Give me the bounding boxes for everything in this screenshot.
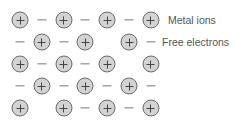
free-electron-icon — [59, 41, 68, 42]
metal-ion-icon — [55, 56, 72, 73]
metal-ion-icon — [12, 100, 29, 117]
free-electron-icon — [37, 19, 46, 20]
metal-ion-icon — [99, 56, 116, 73]
free-electron-icon — [37, 63, 46, 64]
free-electron-icon — [125, 19, 134, 20]
metal-ion-icon — [99, 12, 116, 29]
metal-ion-icon — [12, 56, 29, 73]
metal-ion-icon — [33, 78, 50, 95]
free-electron-icon — [81, 19, 90, 20]
free-electron-icon — [125, 107, 134, 108]
free-electron-icon — [59, 85, 68, 86]
free-electron-icon — [103, 85, 112, 86]
free-electron-icon — [146, 41, 155, 42]
metal-ion-icon — [99, 100, 116, 117]
metal-ion-icon — [12, 12, 29, 29]
metal-ion-icon — [142, 56, 159, 73]
free-electron-icon — [16, 41, 25, 42]
free-electron-icon — [16, 85, 25, 86]
metal-ion-icon — [55, 100, 72, 117]
metal-ion-icon — [142, 12, 159, 29]
metal-ion-icon — [55, 12, 72, 29]
metal-ion-icon — [77, 34, 94, 51]
metal-ion-icon — [33, 34, 50, 51]
label-metal-ions: Metal ions — [168, 14, 216, 26]
metal-ion-icon — [121, 34, 138, 51]
free-electron-icon — [81, 107, 90, 108]
metal-ion-icon — [77, 78, 94, 95]
metal-ion-icon — [142, 100, 159, 117]
free-electron-icon — [146, 85, 155, 86]
label-free-electrons: Free electrons — [162, 36, 229, 48]
free-electron-icon — [81, 63, 90, 64]
metal-ion-icon — [121, 78, 138, 95]
